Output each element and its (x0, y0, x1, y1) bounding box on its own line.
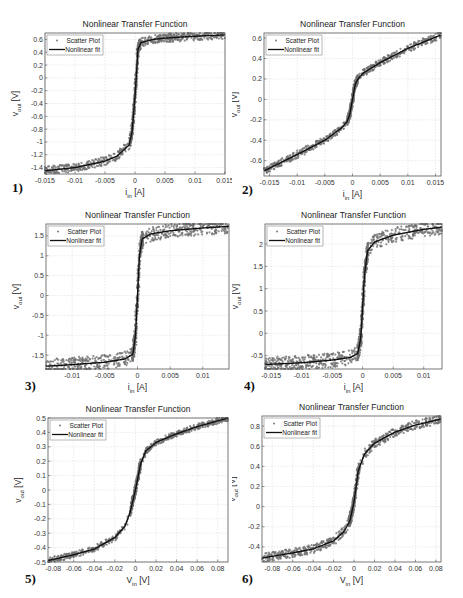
svg-text:0.8: 0.8 (250, 423, 260, 430)
svg-text:0.5: 0.5 (34, 272, 44, 279)
svg-text:-0.015: -0.015 (260, 179, 280, 186)
svg-text:-0.3: -0.3 (34, 530, 46, 537)
legend: Scatter PlotNonlinear fit (266, 35, 322, 55)
svg-text:-0.04: -0.04 (86, 565, 102, 572)
legend-scatter-label: Scatter Plot (66, 37, 100, 44)
x-axis-label: iin [A] (128, 382, 147, 394)
svg-text:0: 0 (133, 565, 137, 572)
svg-text:-1.5: -1.5 (32, 352, 44, 359)
svg-text:-1.2: -1.2 (31, 151, 43, 158)
chart-title: Nonlinear Transfer Function (85, 210, 190, 220)
y-axis-label: vout [V] (232, 284, 242, 309)
chart-svg: Nonlinear Transfer Function-0.01-0.00500… (0, 200, 232, 400)
svg-text:0.02: 0.02 (149, 565, 163, 572)
svg-text:0.04: 0.04 (388, 565, 402, 572)
svg-text:-0.005: -0.005 (322, 372, 342, 379)
subplot-6: Nonlinear Transfer Function-0.08-0.06-0.… (232, 398, 463, 598)
svg-text:-1: -1 (38, 332, 44, 339)
svg-text:0: 0 (40, 292, 44, 299)
svg-text:0.01: 0.01 (188, 177, 202, 184)
svg-text:0.3: 0.3 (36, 443, 46, 450)
svg-text:-0.2: -0.2 (248, 523, 260, 530)
svg-text:0.06: 0.06 (190, 565, 204, 572)
chart-title: Nonlinear Transfer Function (300, 19, 405, 29)
svg-text:0.5: 0.5 (36, 415, 46, 422)
legend: Scatter PlotNonlinear fit (50, 420, 106, 440)
svg-text:-0.6: -0.6 (250, 157, 262, 164)
svg-text:0.4: 0.4 (252, 55, 262, 62)
svg-text:-0.04: -0.04 (305, 565, 321, 572)
svg-text:-0.4: -0.4 (248, 543, 260, 550)
panel-label: 3) (25, 378, 36, 394)
svg-text:0.005: 0.005 (161, 372, 179, 379)
chart-svg: Nonlinear Transfer Function-0.015-0.01-0… (0, 0, 232, 200)
subplot-5: Nonlinear Transfer Function-0.08-0.06-0.… (0, 398, 232, 598)
svg-text:0.6: 0.6 (33, 36, 43, 43)
legend-fit-label: Nonlinear fit (284, 46, 319, 53)
legend-scatter-label: Scatter Plot (69, 422, 103, 429)
panel-label: 4) (244, 378, 255, 394)
svg-text:0: 0 (259, 330, 263, 337)
svg-text:0.015: 0.015 (216, 177, 232, 184)
svg-text:0.2: 0.2 (252, 75, 262, 82)
panel-label: 2) (242, 182, 253, 198)
svg-text:2: 2 (259, 241, 263, 248)
svg-text:-0.01: -0.01 (289, 179, 305, 186)
svg-text:-0.005: -0.005 (95, 372, 115, 379)
fit-line (265, 227, 442, 364)
svg-text:0: 0 (258, 96, 262, 103)
chart-title: Nonlinear Transfer Function (299, 402, 404, 412)
svg-text:0.4: 0.4 (250, 463, 260, 470)
svg-text:0.02: 0.02 (368, 565, 382, 572)
y-axis-label: vout [V] (11, 284, 23, 309)
svg-text:0.015: 0.015 (427, 179, 445, 186)
svg-text:-0.2: -0.2 (250, 116, 262, 123)
legend-fit-label: Nonlinear fit (66, 237, 101, 244)
svg-text:0.6: 0.6 (252, 35, 262, 42)
chart-title: Nonlinear Transfer Function (83, 19, 188, 29)
x-tick-labels: -0.015-0.01-0.00500.0050.010.015 (260, 174, 445, 187)
svg-text:-0.01: -0.01 (64, 372, 80, 379)
svg-text:-0.4: -0.4 (34, 544, 46, 551)
svg-text:0: 0 (361, 372, 365, 379)
svg-text:-0.2: -0.2 (34, 515, 46, 522)
svg-text:0: 0 (133, 177, 137, 184)
x-tick-labels: -0.015-0.01-0.00500.0050.010.015 (35, 172, 232, 185)
legend: Scatter PlotNonlinear fit (264, 418, 320, 438)
svg-text:-0.06: -0.06 (285, 565, 301, 572)
subplot-1: Nonlinear Transfer Function-0.015-0.01-0… (0, 0, 232, 200)
y-axis-label: vout [V] (10, 91, 22, 116)
fit-line (262, 419, 441, 558)
svg-text:0: 0 (136, 372, 140, 379)
legend-fit-label: Nonlinear fit (65, 46, 100, 53)
svg-text:0: 0 (39, 74, 43, 81)
svg-text:-0.6: -0.6 (31, 113, 43, 120)
svg-text:0.005: 0.005 (384, 372, 402, 379)
svg-text:-0.02: -0.02 (107, 565, 123, 572)
svg-text:0.005: 0.005 (371, 179, 389, 186)
svg-text:1: 1 (40, 252, 44, 259)
svg-text:0.01: 0.01 (196, 372, 210, 379)
x-axis-label: iin [A] (343, 189, 362, 200)
legend-fit-label: Nonlinear fit (68, 431, 103, 438)
svg-text:0.4: 0.4 (36, 429, 46, 436)
chart-svg: Nonlinear Transfer Function-0.015-0.01-0… (232, 0, 463, 200)
svg-text:0.06: 0.06 (409, 565, 423, 572)
svg-text:-0.5: -0.5 (32, 312, 44, 319)
subplot-2: Nonlinear Transfer Function-0.015-0.01-0… (232, 0, 463, 200)
svg-text:-0.08: -0.08 (45, 565, 61, 572)
svg-text:0: 0 (351, 179, 355, 186)
x-axis-label: iin [A] (344, 382, 363, 394)
svg-text:1.5: 1.5 (253, 263, 263, 270)
svg-text:0.2: 0.2 (250, 483, 260, 490)
svg-text:-1: -1 (37, 138, 43, 145)
x-tick-labels: -0.08-0.06-0.04-0.0200.020.040.060.08 (264, 560, 443, 573)
svg-text:0.08: 0.08 (211, 565, 225, 572)
legend-scatter-label: Scatter Plot (283, 420, 317, 427)
chart-svg: Nonlinear Transfer Function-0.08-0.06-0.… (232, 398, 463, 598)
y-axis-label: vout [V] (232, 476, 239, 501)
svg-text:-0.01: -0.01 (294, 372, 310, 379)
svg-text:0.2: 0.2 (36, 458, 46, 465)
svg-text:0.6: 0.6 (250, 443, 260, 450)
svg-text:-0.8: -0.8 (31, 126, 43, 133)
